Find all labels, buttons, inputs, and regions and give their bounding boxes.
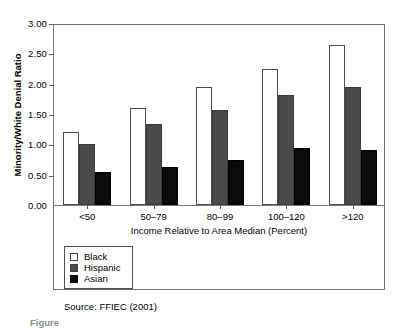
bar-black-2 [196, 87, 212, 205]
bar-asian-3 [294, 148, 310, 205]
bar-hispanic-0 [79, 144, 95, 205]
bar-asian-4 [361, 150, 377, 205]
legend-item: Black [70, 251, 120, 262]
y-axis-tick-label: 2.50 [28, 50, 47, 60]
bar-hispanic-4 [345, 87, 361, 205]
x-axis-tick [353, 205, 354, 209]
bar-asian-0 [95, 172, 111, 205]
x-axis-tick-label: 100–120 [268, 212, 305, 222]
x-axis-title: Income Relative to Area Median (Percent) [53, 226, 385, 236]
legend-item: Hispanic [70, 262, 120, 273]
x-axis-tick-label: >120 [342, 212, 363, 222]
x-axis-tick-label: 50–79 [140, 212, 166, 222]
y-axis-tick [49, 54, 54, 55]
y-axis-tick [49, 115, 54, 116]
plot-area: 0.000.501.001.502.002.503.00<5050–7980–9… [53, 24, 385, 206]
x-axis-tick-label: 80–99 [207, 212, 233, 222]
x-axis-tick [286, 205, 287, 209]
legend-item-label: Black [84, 251, 107, 262]
legend: BlackHispanicAsian [64, 246, 133, 289]
bar-black-3 [262, 69, 278, 206]
y-axis-tick [49, 24, 54, 25]
y-axis-tick [49, 85, 54, 86]
source-note: Source: FFIEC (2001) [64, 302, 157, 312]
legend-swatch-icon [70, 253, 78, 261]
legend-swatch-icon [70, 275, 78, 283]
x-axis-tick-label: <50 [79, 212, 95, 222]
y-axis-tick-label: 2.00 [28, 80, 47, 90]
y-axis-tick [49, 145, 54, 146]
bar-black-1 [130, 108, 146, 205]
x-axis-tick [154, 205, 155, 209]
legend-item-label: Asian [84, 273, 108, 284]
x-axis-tick [220, 205, 221, 209]
bar-hispanic-2 [212, 110, 228, 205]
bar-asian-2 [228, 160, 244, 205]
legend-item-label: Hispanic [84, 262, 120, 273]
y-axis-tick-label: 1.00 [28, 141, 47, 151]
bar-asian-1 [162, 167, 178, 205]
y-axis-tick-label: 1.50 [28, 110, 47, 120]
y-axis-tick-label: 3.00 [28, 19, 47, 29]
y-axis-tick [49, 176, 54, 177]
figure-caption-stub: Figure [30, 318, 59, 328]
bar-hispanic-3 [278, 95, 294, 205]
bar-black-0 [63, 132, 79, 205]
legend-item: Asian [70, 273, 120, 284]
bar-hispanic-1 [146, 124, 162, 205]
legend-swatch-icon [70, 264, 78, 272]
y-axis-title: Minority/White Denial Ratio [11, 24, 25, 206]
y-axis-tick-label: 0.50 [28, 171, 47, 181]
x-axis-tick [87, 205, 88, 209]
bar-black-4 [329, 45, 345, 205]
y-axis-tick-label: 0.00 [28, 201, 47, 211]
